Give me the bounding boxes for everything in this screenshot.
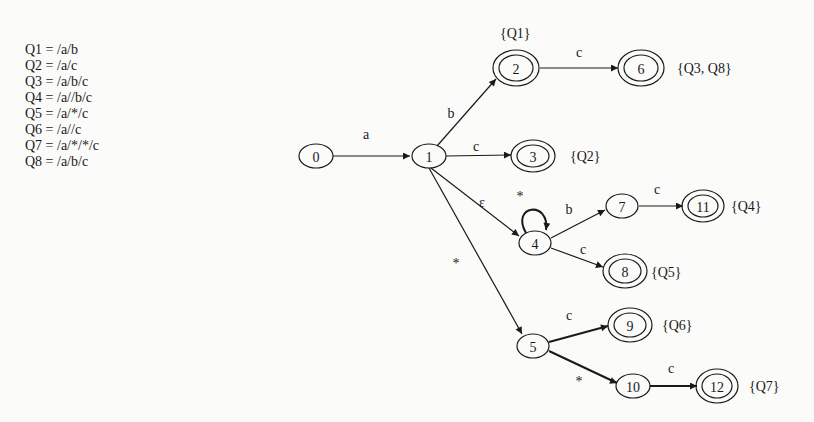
state-8-queries: {Q5} <box>651 265 682 280</box>
edge-1-4 <box>431 168 519 236</box>
state-1-label: 1 <box>426 150 433 165</box>
edge-1-5 <box>429 168 522 334</box>
edge-5-10 <box>549 351 617 383</box>
edge-7-11-label: c <box>654 182 660 197</box>
state-11-queries: {Q4} <box>731 199 762 214</box>
state-12-label: 12 <box>710 380 724 395</box>
edge-1-3-label: c <box>473 139 479 154</box>
edge-4-4-label: * <box>517 189 524 204</box>
edge-5-9-label: c <box>566 308 572 323</box>
edge-5-9 <box>549 326 608 342</box>
state-6-queries: {Q3, Q8} <box>677 61 732 76</box>
edge-0-1-label: a <box>363 127 370 142</box>
edge-1-3 <box>446 155 511 156</box>
edge-4-8-label: c <box>580 242 586 257</box>
edge-10-12-label: c <box>668 361 674 376</box>
state-7-label: 7 <box>619 200 626 215</box>
state-9-queries: {Q6} <box>662 318 693 333</box>
edge-1-2 <box>437 79 496 146</box>
edge-1-4-label: ε <box>479 195 485 210</box>
edge-1-5-label: * <box>453 256 460 271</box>
state-11-label: 11 <box>696 200 709 215</box>
nfa-diagram: 0 1 2 6 3 4 7 11 8 5 9 10 12 a b c ε * c… <box>0 0 814 422</box>
edge-4-7 <box>551 210 605 238</box>
state-12-queries: {Q7} <box>749 379 780 394</box>
edge-1-2-label: b <box>448 106 455 121</box>
state-3-label: 3 <box>530 150 537 165</box>
edge-4-4-loop <box>522 210 546 233</box>
state-2-queries: {Q1} <box>500 26 531 41</box>
state-9-label: 9 <box>627 319 634 334</box>
edge-5-10-label: * <box>576 374 583 389</box>
state-6-label: 6 <box>638 62 645 77</box>
state-2-label: 2 <box>513 62 520 77</box>
state-4-label: 4 <box>532 237 539 252</box>
edge-4-8 <box>551 248 603 267</box>
state-0-label: 0 <box>313 150 320 165</box>
state-3-queries: {Q2} <box>570 149 601 164</box>
edge-2-6-label: c <box>576 45 582 60</box>
state-8-label: 8 <box>622 265 629 280</box>
state-10-label: 10 <box>626 380 640 395</box>
state-5-label: 5 <box>530 340 537 355</box>
edge-4-7-label: b <box>566 202 573 217</box>
